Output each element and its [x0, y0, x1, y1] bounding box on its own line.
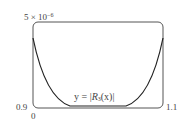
y-max-tick-label: 5 × 10−6 [24, 10, 53, 22]
x-min-tick-label: 0.9 [16, 102, 27, 112]
curve-annotation: y = |R3(x)| [74, 92, 114, 104]
y-min-tick-label: 0 [31, 111, 36, 121]
x-max-tick-label: 1.1 [166, 102, 177, 112]
